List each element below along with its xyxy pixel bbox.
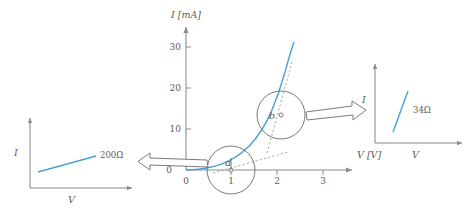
main-x-ticklabel-3: 3 bbox=[320, 176, 326, 186]
main-x-axis-label: V [V] bbox=[357, 149, 381, 160]
label-layer: I [mA] V [V] 0 10 20 30 0 1 2 3 a b I V … bbox=[0, 0, 466, 216]
left-inset-x-axis-label: V bbox=[68, 194, 76, 205]
main-y-ticklabel-20: 20 bbox=[170, 83, 182, 93]
main-x-ticklabel-1: 1 bbox=[228, 176, 234, 186]
right-inset-x-axis-label: V bbox=[412, 149, 420, 160]
main-y-ticklabel-10: 10 bbox=[170, 124, 182, 134]
operating-point-b-label: b bbox=[269, 110, 275, 121]
main-y-ticklabel-0: 0 bbox=[166, 165, 172, 175]
main-y-ticklabel-30: 30 bbox=[170, 42, 182, 52]
main-y-axis-label: I [mA] bbox=[170, 9, 201, 20]
main-x-ticklabel-2: 2 bbox=[274, 176, 280, 186]
right-inset-y-axis-label: I bbox=[361, 94, 366, 105]
right-inset-resistance-label: 34Ω bbox=[413, 105, 431, 115]
left-inset-y-axis-label: I bbox=[13, 147, 18, 158]
main-x-ticklabel-0: 0 bbox=[183, 176, 189, 186]
figure-root: I [mA] V [V] 0 10 20 30 0 1 2 3 a b I V … bbox=[0, 0, 466, 216]
left-inset-resistance-label: 200Ω bbox=[100, 150, 123, 160]
operating-point-a-label: a bbox=[225, 157, 231, 168]
